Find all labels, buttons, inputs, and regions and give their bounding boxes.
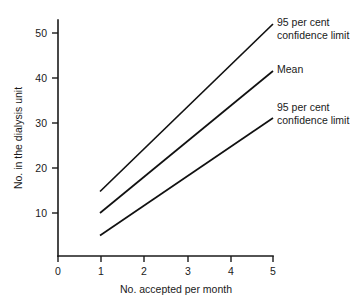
chart-figure: 50 40 30 20 10 0 1 2 3 4 5 No. accepted … — [0, 0, 364, 308]
x-axis-title: No. accepted per month — [120, 283, 232, 295]
x-tick-label-3: 3 — [185, 265, 191, 277]
y-tick-label-50: 50 — [35, 27, 47, 39]
line-chart-canvas: 50 40 30 20 10 0 1 2 3 4 5 No. accepted … — [0, 0, 364, 308]
y-tick-label-10: 10 — [35, 207, 47, 219]
annotation-lower-confidence-limit-line1: 95 per cent — [277, 101, 330, 113]
annotation-lower-confidence-limit-line2: confidence limit — [277, 114, 349, 126]
x-tick-label-5: 5 — [270, 265, 276, 277]
series-line-mean — [100, 71, 273, 213]
series-line-upper-confidence-limit — [100, 24, 273, 192]
annotation-upper-confidence-limit-line1: 95 per cent — [277, 16, 330, 28]
annotation-mean: Mean — [277, 63, 303, 75]
x-tick-label-2: 2 — [141, 265, 147, 277]
y-tick-label-40: 40 — [35, 72, 47, 84]
series-line-lower-confidence-limit — [100, 118, 273, 236]
y-tick-label-30: 30 — [35, 117, 47, 129]
x-tick-label-0: 0 — [55, 265, 61, 277]
x-tick-label-4: 4 — [228, 265, 234, 277]
y-tick-label-20: 20 — [35, 162, 47, 174]
y-axis-title: No. in the dialysis unit — [12, 87, 24, 189]
x-tick-label-1: 1 — [98, 265, 104, 277]
annotation-upper-confidence-limit-line2: confidence limit — [277, 29, 349, 41]
